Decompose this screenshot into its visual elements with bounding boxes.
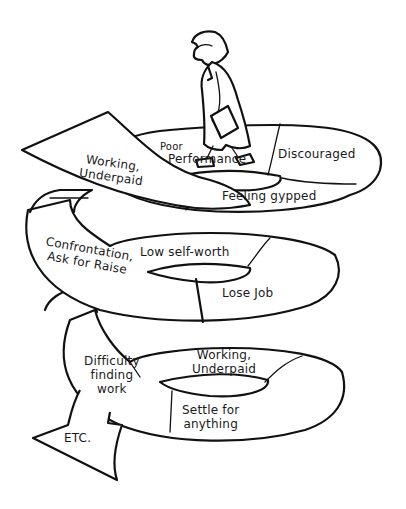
stage-label-etc: ETC. (64, 431, 91, 445)
stage-label-feeling-gypped: Feeling gypped (222, 189, 316, 203)
stage-label-discouraged: Discouraged (278, 147, 355, 161)
spiral-diagram: Working, Underpaid Poor Performance Disc… (0, 0, 406, 509)
stage-label-working-underpaid-bottom: Working, Underpaid (192, 348, 256, 376)
stage-label-difficulty-finding-work: Difficulty finding work (84, 354, 140, 396)
stage-label-low-self-worth: Low self-worth (140, 245, 230, 259)
stage-label-lose-job: Lose Job (222, 286, 273, 300)
stage-label-settle-for-anything: Settle for anything (182, 403, 239, 431)
stage-label-poor-performance: Poor Performance (160, 140, 246, 166)
